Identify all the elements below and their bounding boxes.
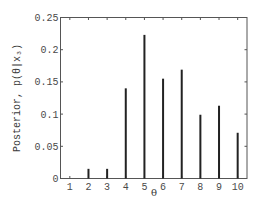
x-axis-ticks: 12345678910 — [67, 18, 244, 193]
x-tick-label: 1 — [67, 182, 73, 193]
posterior-bar-chart: 00.050.10.150.20.25 12345678910 Posterio… — [0, 0, 258, 206]
x-tick-label: 7 — [179, 182, 185, 193]
y-tick-label: 0.2 — [40, 45, 58, 56]
x-tick-label: 5 — [141, 182, 147, 193]
x-tick-label: 2 — [85, 182, 91, 193]
bar-theta-9 — [218, 106, 220, 179]
x-tick-label: 10 — [232, 182, 244, 193]
x-axis-label: θ — [151, 187, 157, 198]
y-tick-label: 0.25 — [34, 13, 58, 24]
x-tick-label: 4 — [123, 182, 129, 193]
bar-theta-5 — [143, 35, 145, 179]
y-tick-label: 0 — [52, 174, 58, 185]
x-tick-label: 9 — [216, 182, 222, 193]
y-axis-label: Posterior, p(θ|x₃) — [12, 44, 23, 152]
bar-theta-8 — [199, 115, 201, 179]
bar-theta-2 — [87, 169, 89, 179]
y-axis-ticks: 00.050.10.150.20.25 — [34, 13, 247, 185]
y-tick-label: 0.05 — [34, 142, 58, 153]
bar-theta-10 — [237, 133, 239, 179]
bar-theta-4 — [125, 88, 127, 178]
bars — [87, 35, 238, 179]
x-tick-label: 3 — [104, 182, 110, 193]
y-tick-label: 0.15 — [34, 77, 58, 88]
bar-theta-6 — [162, 79, 164, 179]
x-tick-label: 6 — [160, 182, 166, 193]
bar-theta-3 — [106, 169, 108, 179]
x-tick-label: 8 — [197, 182, 203, 193]
bar-theta-7 — [181, 70, 183, 179]
y-tick-label: 0.1 — [40, 110, 58, 121]
